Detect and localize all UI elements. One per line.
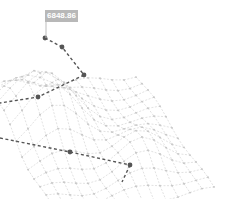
surface-mesh (0, 70, 215, 199)
value-tooltip: 6848.86 (45, 10, 78, 22)
surface-chart[interactable] (0, 0, 247, 199)
